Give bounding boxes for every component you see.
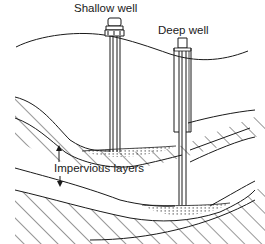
lower-impervious-layer [0, 168, 265, 244]
deep-well [174, 38, 191, 205]
ground-surface [16, 33, 248, 59]
impervious-layers-label: Impervious layers [54, 163, 144, 175]
shallow-well-label: Shallow well [74, 3, 137, 15]
deep-well-label: Deep well [158, 25, 209, 37]
arrow-down-icon [57, 176, 63, 187]
well-diagram [0, 0, 265, 244]
